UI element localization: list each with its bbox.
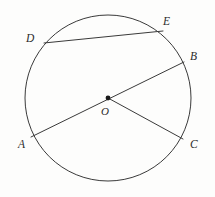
circle-geometry-diagram: D E B O A C: [0, 0, 215, 197]
point-label-E: E: [163, 16, 170, 28]
point-label-A: A: [18, 139, 25, 151]
center-point-dot: [106, 96, 111, 101]
point-label-D: D: [26, 33, 34, 45]
point-label-O: O: [101, 106, 109, 117]
radius-segment-OC: [108, 98, 183, 139]
point-label-B: B: [190, 51, 197, 63]
geometry-canvas: [0, 0, 215, 197]
chord-segment-DE: [44, 31, 163, 43]
point-label-C: C: [190, 139, 198, 151]
